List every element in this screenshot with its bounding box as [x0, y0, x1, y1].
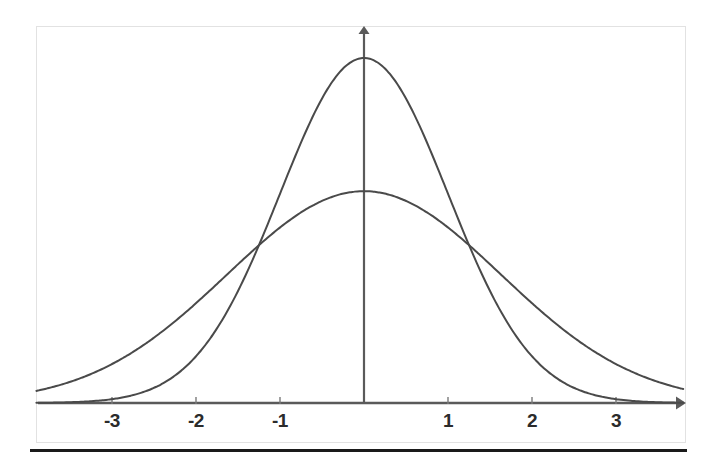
- curve-wide: [36, 191, 683, 391]
- x-tick-label-neg1: -1: [260, 411, 300, 431]
- x-tick-label-1: 1: [428, 411, 468, 431]
- y-axis: [359, 26, 370, 403]
- x-tick-label-3: 3: [596, 411, 636, 431]
- x-tick-label-neg2: -2: [176, 411, 216, 431]
- curve-group: [36, 58, 683, 403]
- x-axis: [38, 397, 686, 410]
- baseline-rule: [30, 449, 687, 452]
- distribution-chart: [0, 0, 713, 473]
- y-axis-arrow-icon: [359, 26, 370, 34]
- x-tick-label-2: 2: [512, 411, 552, 431]
- chart-figure: -3-2-1123: [0, 0, 713, 473]
- x-tick-label-neg3: -3: [92, 411, 132, 431]
